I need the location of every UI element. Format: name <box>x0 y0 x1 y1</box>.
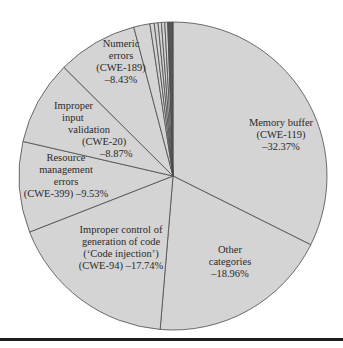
bottom-divider-rule <box>0 338 343 341</box>
label-line: errors <box>16 176 116 188</box>
label-line: Memory buffer <box>236 117 326 129</box>
label-line: (CWE-189) <box>86 62 156 74</box>
label-line: –8.43% <box>86 74 156 86</box>
label-line: Improper <box>26 100 136 112</box>
label-line: –8.87% <box>26 148 136 160</box>
label-other-categories: Other categories –18.96% <box>190 244 270 280</box>
label-line: (CWE-94) –17.74% <box>66 260 176 272</box>
label-line: categories <box>190 256 270 268</box>
label-line: errors <box>86 50 156 62</box>
label-line: –18.96% <box>190 268 270 280</box>
label-line: management <box>16 164 116 176</box>
pie-chart: Memory buffer (CWE-119) –32.37% Other ca… <box>0 0 343 348</box>
label-line: Numeric <box>86 38 156 50</box>
label-code-injection: Improper control of generation of code (… <box>66 224 176 272</box>
label-line: (CWE-20) <box>26 136 136 148</box>
label-numeric-errors: Numeric errors (CWE-189) –8.43% <box>86 38 156 86</box>
label-line: Improper control of <box>66 224 176 236</box>
label-line: generation of code <box>66 236 176 248</box>
label-line: (CWE-399) –9.53% <box>16 188 116 200</box>
label-line: –32.37% <box>236 141 326 153</box>
label-line: validation <box>26 124 136 136</box>
label-line: (‘Code injection’) <box>66 248 176 260</box>
label-line: input <box>26 112 136 124</box>
label-line: (CWE-119) <box>236 129 326 141</box>
label-line: Other <box>190 244 270 256</box>
label-input-validation: Improper input validation (CWE-20) –8.87… <box>26 100 136 160</box>
label-memory-buffer: Memory buffer (CWE-119) –32.37% <box>236 117 326 153</box>
